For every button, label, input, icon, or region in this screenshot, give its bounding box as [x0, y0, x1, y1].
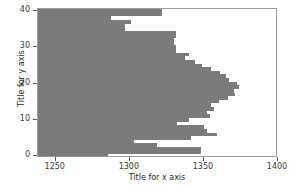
y-tick-mark [33, 119, 37, 120]
bar-fill [38, 111, 207, 115]
bar-fill [38, 125, 204, 129]
bar [38, 56, 277, 60]
bar-fill [38, 31, 176, 35]
bar-fill [38, 147, 201, 151]
bar-fill [38, 74, 226, 78]
bar [38, 147, 277, 151]
bar-fill [38, 129, 207, 133]
bar [38, 136, 277, 140]
x-tick-mark [277, 157, 278, 161]
chart-figure: 1250130013501400 010203040 Title for x a… [0, 0, 289, 185]
y-tick-mark [33, 10, 37, 11]
bar [38, 133, 277, 137]
bar [38, 122, 277, 126]
bar [38, 49, 277, 53]
bar [38, 151, 277, 155]
bar-fill [38, 140, 134, 144]
bar-fill [38, 67, 211, 71]
bar [38, 34, 277, 38]
bar-fill [38, 107, 214, 111]
bar-fill [38, 13, 162, 17]
bar [38, 118, 277, 122]
bar-fill [38, 53, 189, 57]
bar-fill [38, 154, 108, 157]
bar [38, 71, 277, 75]
bar [38, 82, 277, 86]
bar-fill [38, 20, 131, 24]
bar-fill [38, 60, 195, 64]
bar [38, 13, 277, 17]
bar [38, 107, 277, 111]
bar-fill [38, 71, 220, 75]
bar [38, 31, 277, 35]
bar [38, 100, 277, 104]
bar [38, 45, 277, 49]
bar [38, 74, 277, 78]
bar-fill [38, 122, 177, 126]
bar [38, 64, 277, 68]
x-tick-mark [203, 157, 204, 161]
x-axis-title: Title for x axis [37, 173, 277, 182]
bar-fill [38, 100, 219, 104]
bar [38, 93, 277, 97]
bar-fill [38, 89, 234, 93]
bar-fill [38, 103, 211, 107]
bar-fill [38, 34, 176, 38]
bar [38, 67, 277, 71]
x-tick-mark [55, 157, 56, 161]
y-tick-mark [33, 46, 37, 47]
bar-fill [38, 133, 217, 137]
bar [38, 60, 277, 64]
bar-fill [38, 38, 174, 42]
bar [38, 89, 277, 93]
bar [38, 143, 277, 147]
bar-fill [38, 9, 162, 13]
bar [38, 24, 277, 28]
bar-series [38, 9, 276, 156]
bar [38, 16, 277, 20]
y-tick-mark [33, 155, 37, 156]
y-axis-title: Title for y axis [17, 4, 26, 153]
bar-fill [38, 96, 228, 100]
bar-fill [38, 93, 235, 97]
bar [38, 140, 277, 144]
bar [38, 154, 277, 157]
bar-fill [38, 118, 189, 122]
bar [38, 78, 277, 82]
bar [38, 27, 277, 31]
y-tick-mark [33, 83, 37, 84]
bar-fill [38, 64, 202, 68]
bar-fill [38, 45, 176, 49]
bar [38, 129, 277, 133]
bar-fill [38, 78, 229, 82]
bar-fill [38, 136, 191, 140]
bar [38, 38, 277, 42]
x-tick-label: 1300 [109, 162, 149, 172]
bar [38, 96, 277, 100]
bar-fill [38, 82, 237, 86]
x-tick-label: 1250 [35, 162, 75, 172]
bar-fill [38, 114, 210, 118]
bar-fill [38, 27, 125, 31]
bar [38, 114, 277, 118]
bar [38, 111, 277, 115]
bar-fill [38, 16, 111, 20]
bar [38, 53, 277, 57]
bar [38, 9, 277, 13]
bar-fill [38, 143, 157, 147]
bar-fill [38, 42, 174, 46]
bar-fill [38, 151, 201, 155]
bar [38, 42, 277, 46]
bar [38, 125, 277, 129]
bar-fill [38, 49, 176, 53]
x-tick-mark [129, 157, 130, 161]
bar-fill [38, 85, 239, 89]
plot-area [37, 8, 277, 157]
bar [38, 20, 277, 24]
bar [38, 103, 277, 107]
bar-fill [38, 56, 185, 60]
bar-fill [38, 24, 125, 28]
x-tick-label: 1400 [257, 162, 289, 172]
bar [38, 85, 277, 89]
x-tick-label: 1350 [183, 162, 223, 172]
